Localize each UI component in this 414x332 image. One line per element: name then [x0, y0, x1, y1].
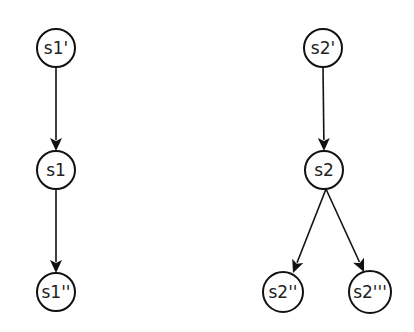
node-s2pp: s2'': [263, 272, 303, 312]
edge-line: [323, 67, 324, 140]
edge-line: [297, 189, 326, 263]
node-s2p: s2': [304, 29, 342, 67]
node-label: s2''': [353, 282, 387, 302]
edge-line: [326, 189, 359, 262]
edge-s1p-to-s1: [50, 67, 62, 151]
node-label: s1'': [41, 282, 70, 302]
edge-s2-to-s2pp: [292, 189, 326, 273]
nodes-group: s1's1s1''s2's2s2''s2''': [37, 29, 391, 313]
node-label: s2': [311, 38, 335, 58]
tree-diagram: s1's1s1''s2's2s2''s2''': [0, 0, 414, 332]
node-s1: s1: [37, 151, 75, 189]
edge-s1-to-s1pp: [50, 189, 62, 273]
edge-s2p-to-s2: [318, 67, 330, 151]
node-label: s1': [44, 38, 68, 58]
node-label: s2: [314, 160, 334, 180]
node-s2ppp: s2''': [349, 271, 391, 313]
node-s2: s2: [305, 151, 343, 189]
node-s1pp: s1'': [37, 273, 75, 311]
node-label: s1: [46, 160, 66, 180]
edge-s2-to-s2ppp: [326, 189, 364, 272]
node-s1p: s1': [37, 29, 75, 67]
node-label: s2'': [268, 282, 297, 302]
